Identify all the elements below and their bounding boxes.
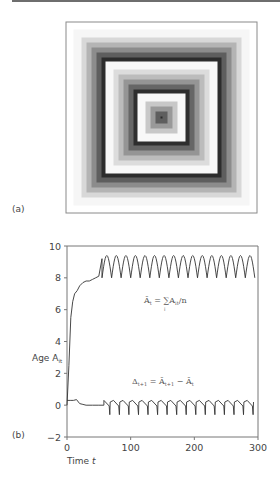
age-time-chart: −202468100100200300Age AitTime tĀt = ∑Ai… xyxy=(0,0,280,487)
y-axis-label: Age Ait xyxy=(32,353,63,364)
x-tick-label: 100 xyxy=(122,442,140,453)
panel-b-label: (b) xyxy=(12,430,25,440)
y-tick-label: 2 xyxy=(55,368,61,379)
x-tick-label: 200 xyxy=(185,442,203,453)
delta-line xyxy=(67,400,254,415)
y-tick-label: −2 xyxy=(47,432,61,443)
delta-equation: Δt+1 = Āt+1 − Āt xyxy=(132,377,194,387)
x-tick-label: 0 xyxy=(64,442,70,453)
mean-age-equation: Āt = ∑Ait/n xyxy=(143,296,187,306)
x-tick-label: 300 xyxy=(249,442,267,453)
y-tick-label: 10 xyxy=(49,241,61,252)
y-tick-label: 4 xyxy=(55,336,61,347)
x-axis-label: Time t xyxy=(66,456,96,466)
y-tick-label: 6 xyxy=(55,304,61,315)
sum-index: i xyxy=(164,306,165,312)
plot-frame xyxy=(67,246,258,437)
y-tick-label: 0 xyxy=(55,400,61,411)
y-tick-label: 8 xyxy=(55,272,61,283)
